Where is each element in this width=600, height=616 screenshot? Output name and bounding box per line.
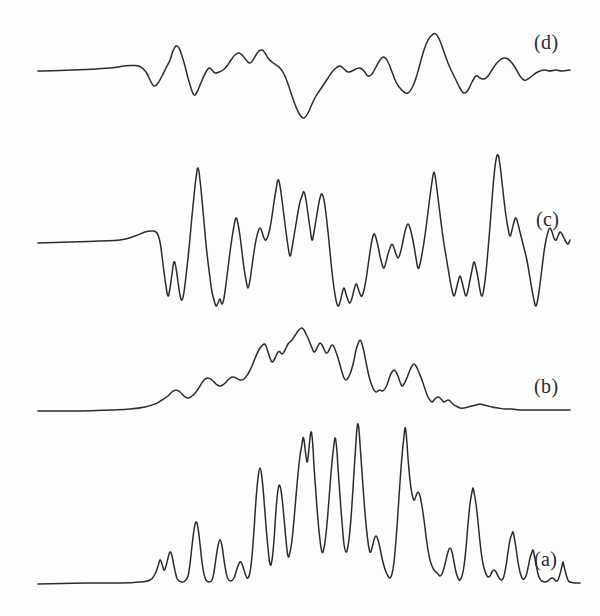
spectra-plot-area xyxy=(0,0,600,616)
trace-label-a: (a) xyxy=(534,548,557,571)
trace-label-b: (b) xyxy=(534,375,559,398)
spectra-figure: (d) (c) (b) (a) xyxy=(0,0,600,616)
plot-background xyxy=(0,0,600,616)
trace-label-d: (d) xyxy=(534,31,559,54)
trace-label-c: (c) xyxy=(536,208,559,231)
